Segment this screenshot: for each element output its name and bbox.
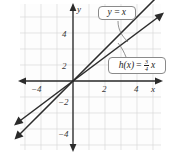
equation-equals: = xyxy=(114,8,121,18)
fraction-three-fourths: 3 4 xyxy=(144,59,149,73)
equation-lhs: h(x) xyxy=(119,61,134,71)
fraction-numerator: 3 xyxy=(144,59,149,66)
equation-lhs: y xyxy=(108,8,113,18)
fraction-denominator: 4 xyxy=(144,66,149,72)
equation-variable: x xyxy=(151,61,155,71)
y-tick-label-2: 2 xyxy=(62,61,67,71)
coordinate-plane: −4 2 4 4 2 −2 −4 x y xyxy=(0,0,171,158)
equation-equals: = xyxy=(136,61,142,71)
x-tick-label-2: 2 xyxy=(102,84,107,94)
callout-label-y-equals-x: y = x xyxy=(98,6,136,20)
graph-figure: −4 2 4 4 2 −2 −4 x y y = x h(x) = 3 4 x xyxy=(0,0,171,158)
y-tick-label-neg4: −4 xyxy=(58,129,69,139)
y-tick-label-4: 4 xyxy=(62,29,67,39)
equation-h-of-x: h(x) = 3 4 x xyxy=(119,59,155,73)
y-axis-label: y xyxy=(76,4,81,14)
callout-label-h-of-x: h(x) = 3 4 x xyxy=(108,57,166,74)
x-axis-label: x xyxy=(150,84,155,94)
x-tick-label-neg4: −4 xyxy=(31,84,42,94)
x-tick-label-4: 4 xyxy=(134,84,139,94)
equation-y-equals-x: y = x xyxy=(108,8,127,18)
equation-rhs: x xyxy=(122,8,127,18)
y-tick-label-neg2: −2 xyxy=(58,97,69,107)
